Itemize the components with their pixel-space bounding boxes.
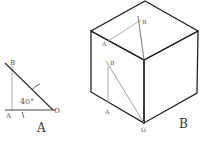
- label-o: O: [141, 126, 146, 133]
- top-label-a: A: [101, 40, 107, 47]
- figure-b: B A B A O B: [91, 1, 198, 133]
- caption-b: B: [179, 117, 188, 131]
- figure-a: B A O 40° A: [5, 59, 60, 135]
- top-line-ab: [108, 20, 141, 41]
- label-o: O: [54, 107, 60, 115]
- label-a: A: [5, 112, 12, 120]
- angle-label: 40°: [20, 97, 34, 106]
- left-line-bo: [106, 61, 144, 123]
- top-label-b: B: [142, 18, 147, 25]
- cube-left-face: [91, 31, 144, 123]
- label-b: B: [10, 59, 15, 67]
- left-label-a: A: [104, 108, 110, 115]
- arrow-icon: [22, 112, 24, 118]
- caption-a: A: [36, 121, 46, 135]
- rotation-arrow-icon: [32, 84, 40, 90]
- cube-right-face: [144, 31, 198, 123]
- cube-top-face: [91, 1, 198, 60]
- left-label-b: B: [110, 59, 115, 66]
- diagram-canvas: B A O 40° A B A B A O B: [0, 0, 206, 141]
